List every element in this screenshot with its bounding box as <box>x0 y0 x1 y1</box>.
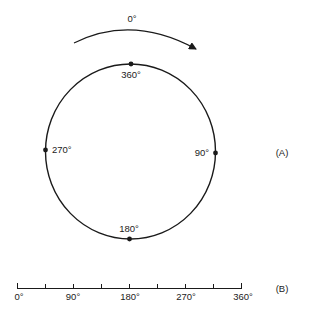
tick-label-0: 0° <box>14 291 23 302</box>
panel-a-label: (A) <box>276 147 289 158</box>
label-top: 360° <box>121 69 141 80</box>
tick-label-360: 360° <box>233 291 253 302</box>
panel-b-label: (B) <box>276 283 289 294</box>
label-bottom: 180° <box>119 223 139 234</box>
point-bottom <box>127 237 132 242</box>
tick-label-90: 90° <box>66 291 81 302</box>
point-left <box>43 148 48 153</box>
panel-a: 0° 360° 90° 180° 270° (A) <box>43 13 288 241</box>
clockwise-arrow-icon <box>74 30 196 49</box>
arrow-label: 0° <box>127 13 136 24</box>
point-top <box>129 62 134 67</box>
point-right <box>213 151 218 156</box>
tick-label-270: 270° <box>176 291 196 302</box>
tick-label-180: 180° <box>120 291 140 302</box>
panel-b: 0° 90° 180° 270° 360° (B) <box>14 283 288 302</box>
label-left: 270° <box>52 144 72 155</box>
label-right: 90° <box>195 147 210 158</box>
phase-diagram: 0° 360° 90° 180° 270° (A) 0° 90° 180 <box>0 0 318 324</box>
